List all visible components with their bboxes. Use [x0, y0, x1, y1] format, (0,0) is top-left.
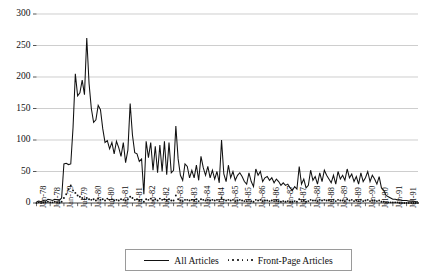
- y-axis-ticks: [33, 14, 37, 203]
- solid-line-icon: [144, 256, 169, 265]
- legend-label-all-articles: All Articles: [174, 255, 219, 266]
- plot-area: [0, 0, 425, 280]
- series-line-all-articles: [37, 38, 419, 202]
- legend: All Articles Front-Page Articles: [125, 249, 352, 271]
- dotted-line-icon: [228, 256, 253, 265]
- legend-item-all-articles: All Articles: [144, 255, 219, 266]
- legend-label-front-page-articles: Front-Page Articles: [258, 255, 333, 266]
- x-axis-ticks: [37, 203, 407, 206]
- legend-item-front-page-articles: Front-Page Articles: [228, 255, 333, 266]
- chart-container: 050100150200250300 Jan-78Jul-78Jan-79Jul…: [0, 0, 425, 280]
- series-dots-front-page-articles: [36, 184, 419, 204]
